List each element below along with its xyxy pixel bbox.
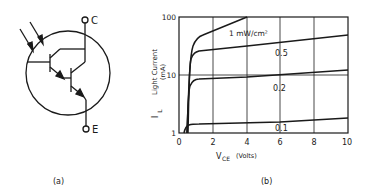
emitter-terminal [83, 126, 89, 132]
y-tick-100: 100 [162, 13, 177, 22]
curve-label-0.5: 0.5 [275, 49, 288, 58]
y-label-line2: (mA) [159, 64, 167, 80]
x-tick-6: 6 [277, 138, 282, 147]
figure-a-caption: (a) [53, 177, 64, 186]
y-tick-10: 10 [166, 71, 176, 80]
x-tick-4: 4 [244, 138, 249, 147]
y-label-sub: L [156, 109, 163, 113]
y-axis-label: Light Current (mA) I L [150, 49, 167, 119]
curve-label-1mw: 1 mW/cm² [229, 29, 268, 38]
curve-label-0.2: 0.2 [273, 84, 286, 93]
y-label-symbol: I [150, 116, 160, 119]
figure-b-caption: (b) [261, 177, 272, 186]
transistor-envelope [26, 31, 110, 115]
x-tick-8: 8 [311, 138, 316, 147]
x-axis-label: V CE (Volts) [216, 152, 257, 162]
y-label-line1: Light Current [151, 49, 159, 95]
emitter-label: E [92, 124, 98, 135]
collector-terminal [82, 17, 88, 23]
curve-label-0.1: 0.1 [275, 124, 288, 133]
collector-label: C [91, 15, 98, 26]
x-tick-0: 0 [176, 138, 181, 147]
light-arrows-icon [20, 22, 43, 51]
curve-0.1 [184, 118, 348, 133]
figure-canvas: C E (a) 1 mW/cm² 0.5 0.2 0.1 100 10 1 0 … [0, 0, 370, 196]
x-label-unit: (Volts) [236, 152, 257, 160]
photodarlington-symbol [20, 17, 110, 132]
x-tick-10: 10 [342, 138, 352, 147]
x-tick-2: 2 [210, 138, 215, 147]
y-tick-1: 1 [171, 129, 176, 138]
curve-0.5 [188, 35, 348, 133]
x-label-sub: CE [222, 155, 230, 162]
